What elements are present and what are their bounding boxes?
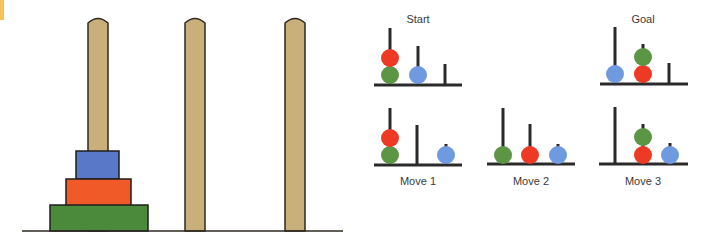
ball-red: [521, 146, 539, 164]
ball-blue: [661, 146, 679, 164]
move-1-diagram: [374, 108, 462, 165]
ball-green: [494, 146, 512, 164]
ball-red: [634, 146, 652, 164]
large-tower-illustration: [0, 0, 710, 233]
move-1-label: Move 1: [378, 175, 458, 187]
ball-red: [381, 49, 399, 67]
ball-blue: [437, 146, 455, 164]
ball-red: [634, 65, 652, 83]
move-2-label: Move 2: [491, 175, 571, 187]
ball-blue: [549, 146, 567, 164]
start-label: Start: [378, 13, 458, 25]
goal-diagram: [600, 27, 688, 84]
peg-3: [285, 19, 305, 232]
move-3-label: Move 3: [603, 175, 683, 187]
start-diagram: [374, 28, 462, 85]
ball-green: [634, 48, 652, 66]
ball-green: [634, 128, 652, 146]
move-2-diagram: [487, 108, 575, 164]
peg-2: [185, 19, 205, 232]
ball-blue: [606, 65, 624, 83]
tower-of-hanoi-diagram: Start Goal Move 1 Move 2 Move 3: [0, 0, 710, 233]
mini-diagrams: [374, 27, 688, 165]
small-blue-disk: [76, 151, 119, 179]
large-disks: [50, 151, 148, 231]
move-3-diagram: [599, 107, 688, 164]
ball-blue: [409, 66, 427, 84]
ball-red: [381, 129, 399, 147]
medium-orange-disk: [66, 179, 131, 206]
goal-label: Goal: [603, 13, 683, 25]
large-green-disk: [50, 205, 148, 231]
ball-green: [381, 66, 399, 84]
ball-green: [381, 146, 399, 164]
